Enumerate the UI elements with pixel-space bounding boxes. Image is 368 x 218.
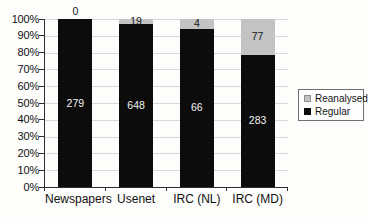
- y-axis-tick: [39, 119, 44, 120]
- y-axis-tick: [39, 52, 44, 53]
- bar-value-label-regular: 283: [241, 115, 275, 126]
- category-label-usenet: Usenet: [106, 193, 167, 206]
- x-axis-tick: [166, 187, 167, 191]
- category-label-newspapers: Newspapers: [45, 193, 106, 206]
- x-axis-tick: [44, 187, 45, 191]
- bar-value-label-reanalysed: 19: [119, 16, 153, 27]
- y-axis-tick: [39, 103, 44, 104]
- y-tick-label: 0%: [3, 182, 39, 193]
- y-tick-label: 60%: [3, 81, 39, 92]
- y-tick-label: 30%: [3, 131, 39, 142]
- category-label-irc-nl: IRC (NL): [167, 193, 228, 206]
- bar-value-label-regular: 66: [180, 102, 214, 113]
- y-tick-label: 50%: [3, 98, 39, 109]
- y-tick-label: 70%: [3, 64, 39, 75]
- y-axis-tick: [39, 19, 44, 20]
- legend-item-reanalysed: Reanalysed: [304, 94, 363, 104]
- bar-value-label-regular: 279: [58, 98, 92, 109]
- legend: Reanalysed Regular: [298, 89, 364, 121]
- y-axis-tick: [39, 136, 44, 137]
- legend-label-reanalysed: Reanalysed: [315, 94, 368, 104]
- y-tick-label: 80%: [3, 47, 39, 58]
- bar-value-label-reanalysed: 0: [58, 6, 92, 17]
- x-axis-tick: [287, 187, 288, 191]
- y-tick-label: 40%: [3, 114, 39, 125]
- legend-label-regular: Regular: [315, 107, 350, 117]
- y-axis-tick: [39, 69, 44, 70]
- y-tick-label: 20%: [3, 148, 39, 159]
- stacked-bar-chart-figure: 27906481966428377 Reanalysed Regular 0%1…: [0, 0, 368, 218]
- y-axis-tick: [39, 170, 44, 171]
- y-axis-line: [44, 19, 45, 188]
- bar-irc-nl: 664: [180, 19, 214, 187]
- bar-newspapers: 2790: [58, 19, 92, 187]
- x-axis-tick: [226, 187, 227, 191]
- bar-value-label-regular: 648: [119, 100, 153, 111]
- category-label-irc-md: IRC (MD): [227, 193, 288, 206]
- bar-value-label-reanalysed: 4: [180, 18, 214, 29]
- x-axis-tick: [105, 187, 106, 191]
- bar-value-label-reanalysed: 77: [241, 31, 275, 42]
- y-tick-label: 100%: [3, 14, 39, 25]
- y-tick-label: 10%: [3, 165, 39, 176]
- regular-swatch-icon: [304, 108, 311, 115]
- bar-irc-md: 28377: [241, 19, 275, 187]
- plot-area: 27906481966428377: [45, 19, 288, 187]
- y-axis-tick: [39, 86, 44, 87]
- bar-usenet: 64819: [119, 19, 153, 187]
- y-axis-tick: [39, 35, 44, 36]
- y-axis-tick: [39, 153, 44, 154]
- legend-item-regular: Regular: [304, 107, 363, 117]
- y-tick-label: 90%: [3, 30, 39, 41]
- reanalysed-swatch-icon: [304, 95, 311, 102]
